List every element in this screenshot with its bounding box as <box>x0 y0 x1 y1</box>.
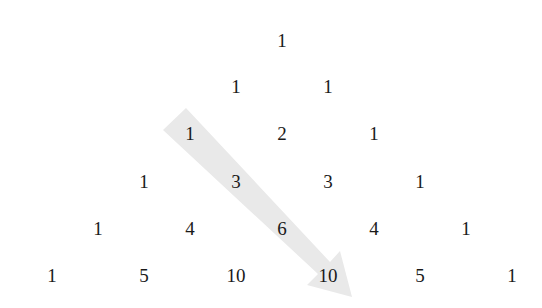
triangle-entry: 1 <box>93 219 103 238</box>
triangle-entry: 4 <box>369 219 379 238</box>
triangle-entry: 1 <box>461 219 471 238</box>
triangle-entry: 4 <box>185 219 195 238</box>
triangle-entry: 1 <box>47 266 57 285</box>
triangle-entry: 6 <box>277 219 287 238</box>
diagonal-arrow-icon <box>0 0 542 308</box>
triangle-entry: 5 <box>415 266 425 285</box>
triangle-entry: 1 <box>277 31 287 50</box>
triangle-entry: 1 <box>369 124 379 143</box>
triangle-entry: 1 <box>139 172 149 191</box>
triangle-entry: 1 <box>507 266 517 285</box>
triangle-entry: 1 <box>323 77 333 96</box>
triangle-entry: 1 <box>415 172 425 191</box>
triangle-entry: 10 <box>319 266 338 285</box>
triangle-entry: 1 <box>185 124 195 143</box>
triangle-entry: 10 <box>227 266 246 285</box>
triangle-entry: 1 <box>231 77 241 96</box>
triangle-entry: 3 <box>231 172 241 191</box>
triangle-entry: 3 <box>323 172 333 191</box>
triangle-entry: 5 <box>139 266 149 285</box>
triangle-entry: 2 <box>277 124 287 143</box>
pascal-triangle-diagram: 11112113311464115101051 <box>0 0 542 308</box>
